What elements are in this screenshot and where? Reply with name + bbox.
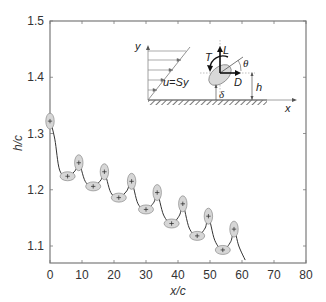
ellipse-marker [75, 155, 83, 171]
ellipse-marker [127, 173, 135, 189]
x-tick-label: 60 [235, 268, 249, 282]
x-tick-label: 40 [171, 268, 185, 282]
plot-axes: 010203040506070801.11.21.31.41.5 [27, 14, 313, 282]
chart: 010203040506070801.11.21.31.41.5 [0, 0, 326, 302]
inset-h-label: h [256, 81, 262, 93]
ellipse-marker [153, 185, 161, 201]
ellipse-marker [86, 182, 101, 191]
ellipse-marker [179, 196, 187, 212]
x-tick-label: 70 [267, 268, 281, 282]
ellipse-marker [60, 172, 75, 181]
ellipse-marker [230, 221, 238, 237]
y-tick-label: 1.3 [27, 127, 44, 141]
inset-y-label: y [134, 40, 142, 52]
x-tick-label: 30 [139, 268, 153, 282]
x-tick-label: 20 [107, 268, 121, 282]
y-tick-label: 1.4 [27, 70, 44, 84]
inset-x-label: x [284, 102, 291, 114]
plot-frame [50, 21, 306, 263]
trajectory-line [50, 119, 245, 260]
inset-delta-label: δ [219, 88, 225, 100]
y-axis-title: h/c [11, 135, 25, 151]
ellipse-marker [100, 164, 108, 180]
x-tick-label: 0 [47, 268, 54, 282]
y-tick-label: 1.2 [27, 183, 44, 197]
x-axis-title: x/c [169, 284, 185, 298]
x-tick-label: 80 [299, 268, 313, 282]
inset-lift-label: L [223, 44, 229, 56]
y-tick-label: 1.1 [27, 239, 44, 253]
ellipse-marker [46, 113, 54, 129]
ellipse-marker [190, 231, 205, 240]
inset-diagram: y u=Sy L T θ D h δ x [134, 40, 297, 114]
inset-theta-label: θ [243, 57, 249, 69]
ellipse-marker [111, 193, 126, 202]
ellipse-marker [139, 205, 154, 214]
inset-flow-label: u=Sy [163, 76, 190, 88]
ellipse-markers [46, 113, 238, 254]
y-tick-label: 1.5 [27, 14, 44, 28]
wall-hatching [148, 100, 267, 105]
ellipse-marker [215, 245, 230, 254]
x-tick-label: 50 [203, 268, 217, 282]
ellipse-marker [164, 219, 179, 228]
x-tick-label: 10 [75, 268, 89, 282]
ellipse-marker [204, 208, 212, 224]
inset-drag-label: D [234, 76, 242, 88]
